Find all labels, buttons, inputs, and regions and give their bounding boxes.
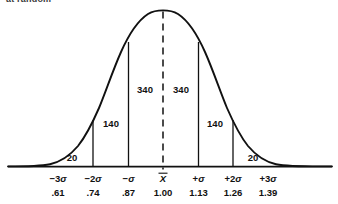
region-label-left-inner: 340 bbox=[137, 84, 153, 95]
region-label-left-outer: 20 bbox=[67, 152, 78, 163]
tick-value-minus-2: .74 bbox=[86, 187, 100, 198]
sigma-glyph: σ bbox=[198, 173, 205, 184]
tick-value-minus-3: .61 bbox=[51, 187, 65, 198]
bell-curve-path bbox=[8, 10, 332, 166]
tick-sigma-mean: X bbox=[159, 173, 167, 184]
tick-value-minus-1: .87 bbox=[122, 187, 135, 198]
normal-curve-figure: at random 20 140 340 340 140 20 −3σ .61 … bbox=[0, 0, 338, 204]
x-bar-glyph: X bbox=[159, 173, 167, 184]
sigma-glyph: σ bbox=[270, 173, 277, 184]
tick-value-plus-1: 1.13 bbox=[189, 187, 208, 198]
sigma-glyph: σ bbox=[235, 173, 242, 184]
tick-sigma-minus-3: −3σ bbox=[49, 173, 67, 184]
region-label-right-outer: 20 bbox=[248, 152, 259, 163]
tick-value-plus-2: 1.26 bbox=[224, 187, 243, 198]
tick-sigma-plus-1: +σ bbox=[193, 173, 206, 184]
tick-sigma-minus-2: −2σ bbox=[84, 173, 102, 184]
distribution-chart: 20 140 340 340 140 20 −3σ .61 −2σ .74 −σ… bbox=[0, 0, 338, 204]
tick-value-mean: 1.00 bbox=[154, 187, 173, 198]
sigma-glyph: σ bbox=[95, 173, 102, 184]
tick-value-plus-3: 1.39 bbox=[259, 187, 278, 198]
tick-sigma-plus-3: +3σ bbox=[259, 173, 277, 184]
sigma-glyph: σ bbox=[128, 173, 135, 184]
region-label-right-mid: 140 bbox=[207, 118, 223, 129]
sigma-glyph: σ bbox=[60, 173, 67, 184]
region-label-left-mid: 140 bbox=[103, 118, 119, 129]
tick-sigma-plus-2: +2σ bbox=[224, 173, 242, 184]
tick-sigma-minus-1: −σ bbox=[123, 173, 136, 184]
region-label-right-inner: 340 bbox=[173, 84, 189, 95]
